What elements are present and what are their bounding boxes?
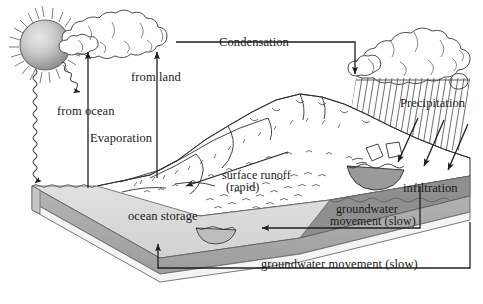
label-precipitation: Precipitation xyxy=(400,96,465,110)
label-groundwater-lower: groundwater movement (slow) xyxy=(261,257,418,271)
label-condensation: Condensation xyxy=(219,35,289,49)
label-ocean-storage: ocean storage xyxy=(128,209,198,223)
cloud-icon xyxy=(59,10,167,59)
label-evaporation: Evaporation xyxy=(90,131,152,145)
water-cycle-diagram: Condensation Precipitation from land fro… xyxy=(0,0,483,304)
label-surface-runoff-line2: (rapid) xyxy=(226,181,259,194)
label-from-land: from land xyxy=(131,70,181,84)
label-from-ocean: from ocean xyxy=(57,104,115,118)
label-infiltration: infiltration xyxy=(403,181,458,195)
label-groundwater-upper-line2: movement (slow) xyxy=(330,215,416,228)
